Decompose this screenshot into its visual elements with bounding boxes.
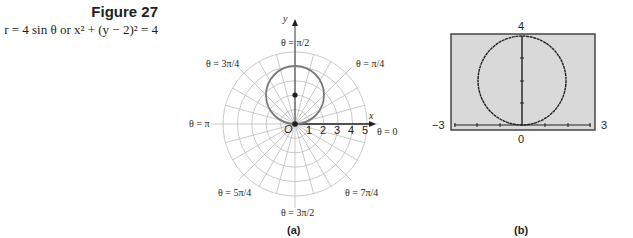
calc-y-min-label: 0 — [518, 133, 524, 145]
figure-canvas: y x O 1 2 3 4 5 θ = 0 θ = π/4 θ = π/2 θ … — [0, 0, 633, 238]
angle-label-3pi-4: θ = 3π/4 — [206, 58, 239, 69]
y-axis-arrow-icon — [292, 19, 298, 26]
calc-x-min-label: −3 — [432, 119, 445, 131]
angle-label-pi-4: θ = π/4 — [356, 58, 384, 69]
angle-label-pi: θ = π — [189, 118, 209, 129]
radial-tick-4: 4 — [348, 124, 354, 136]
polar-axes — [292, 19, 376, 127]
pole-point — [292, 121, 298, 127]
radial-tick-1: 1 — [306, 124, 312, 136]
x-axis-arrow-icon — [369, 121, 376, 127]
panel-a-sublabel: (a) — [287, 224, 301, 236]
panel-b-sublabel: (b) — [514, 224, 528, 236]
y-axis-label: y — [282, 13, 288, 24]
angle-label-0: θ = 0 — [377, 126, 397, 137]
angle-label-7pi-4: θ = 7π/4 — [345, 187, 378, 198]
radial-tick-2: 2 — [320, 124, 326, 136]
angle-label-5pi-4: θ = 5π/4 — [218, 187, 251, 198]
calc-x-max-label: 3 — [601, 119, 607, 131]
calculator-screen — [451, 34, 595, 130]
angle-label-pi-2: θ = π/2 — [281, 37, 309, 48]
angle-label-3pi-2: θ = 3π/2 — [281, 207, 314, 218]
radial-tick-3: 3 — [334, 124, 340, 136]
pole-label: O — [284, 123, 293, 135]
calc-y-max-label: 4 — [518, 20, 524, 32]
x-axis-label: x — [368, 110, 374, 121]
circle-center-point — [292, 92, 297, 97]
radial-tick-5: 5 — [362, 124, 368, 136]
